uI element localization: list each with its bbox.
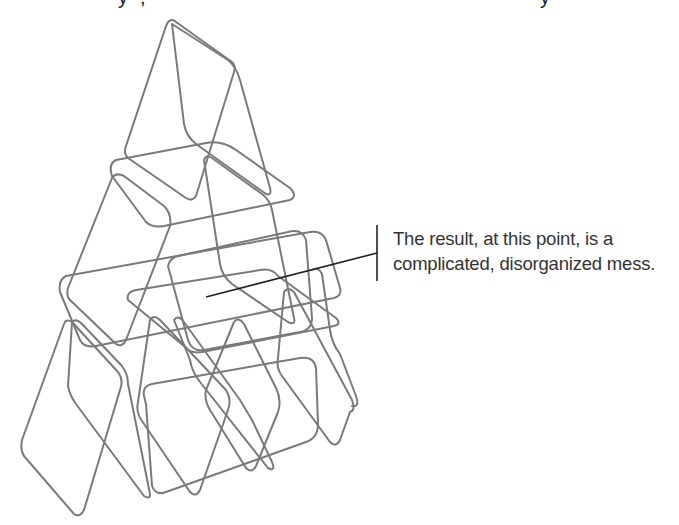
card-floor-bottom [144, 358, 318, 493]
callout-text: The result, at this point, is a complica… [393, 226, 673, 276]
card-floor-upper [111, 142, 294, 226]
card-top-left [125, 20, 235, 200]
card-top-right [172, 24, 271, 194]
card-floor-lower-inner [128, 270, 339, 353]
card-mid-center [168, 231, 312, 350]
callout-line-2: complicated, disorganized mess. [393, 251, 673, 276]
top-tier-cards [125, 20, 271, 200]
bottom-tier-cards [21, 269, 357, 516]
callout-line-1: The result, at this point, is a [393, 226, 673, 251]
